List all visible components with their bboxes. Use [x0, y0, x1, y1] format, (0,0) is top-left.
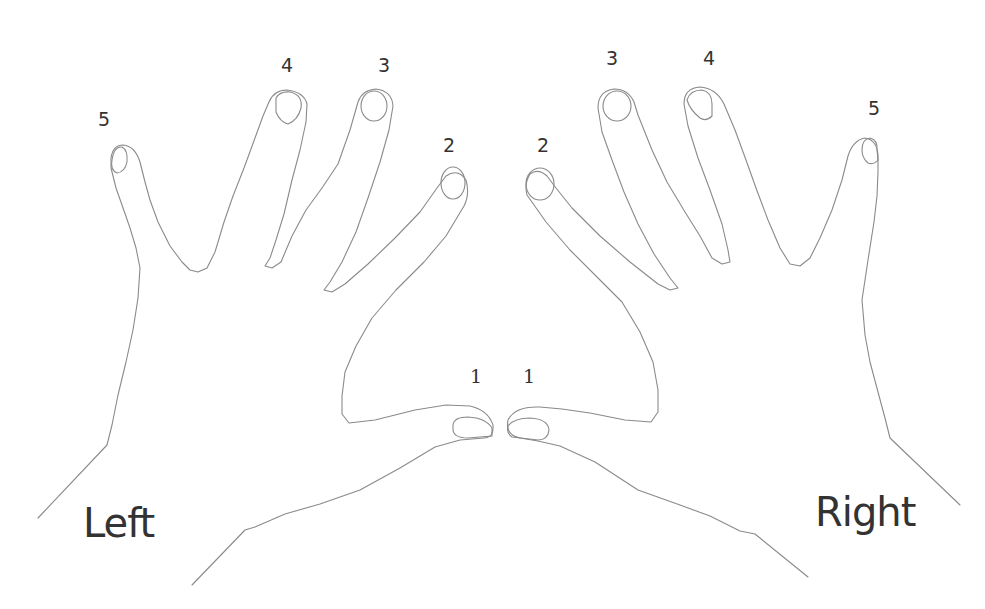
left-index-nail	[441, 167, 465, 199]
right-index-nail	[526, 168, 554, 200]
left-finger-1-label: 1	[470, 367, 482, 386]
right-middle-nail	[603, 91, 631, 121]
left-pinky-nail	[112, 147, 128, 173]
left-finger-2-label: 2	[443, 136, 455, 155]
right-ring-nail	[687, 90, 712, 120]
left-finger-5-label: 5	[98, 110, 110, 129]
right-finger-4-label: 4	[703, 49, 715, 68]
left-ring-nail	[276, 92, 301, 124]
right-hand-title: Right	[815, 492, 915, 532]
left-finger-4-label: 4	[281, 56, 293, 75]
left-finger-3-label: 3	[378, 56, 390, 75]
right-finger-5-label: 5	[868, 99, 880, 118]
right-finger-1-label: 1	[523, 367, 535, 386]
right-finger-2-label: 2	[537, 136, 549, 155]
left-thumb-nail	[453, 417, 492, 438]
right-thumb-nail	[508, 418, 550, 440]
left-middle-nail	[361, 91, 387, 121]
right-pinky-nail	[862, 138, 878, 164]
left-hand-title: Left	[83, 503, 154, 543]
finger-numbering-diagram: 5 4 3 2 1 1 2 3 4 5 Left Right	[0, 0, 985, 609]
right-finger-3-label: 3	[606, 49, 618, 68]
